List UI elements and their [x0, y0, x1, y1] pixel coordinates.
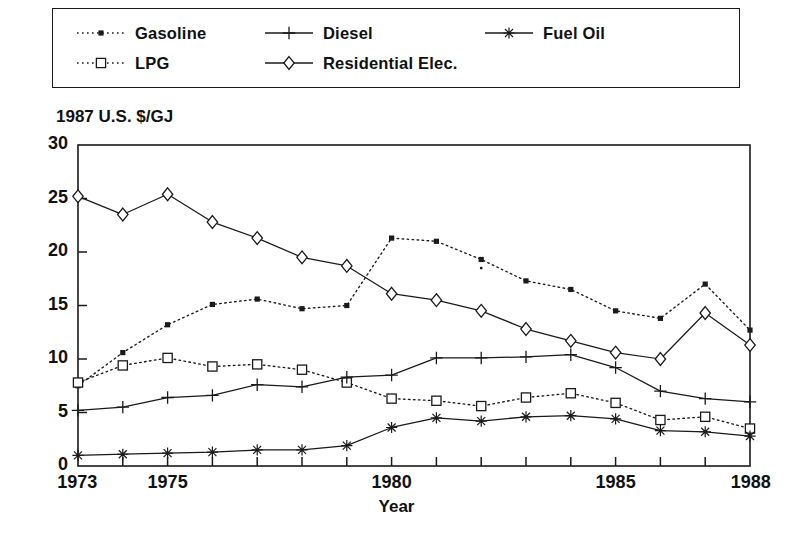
y-tick-label: 30 — [22, 133, 68, 154]
asterisk-icon — [341, 440, 352, 451]
marker-shape — [434, 239, 439, 244]
y-tick-label: 15 — [22, 294, 68, 315]
plus-icon — [296, 381, 308, 393]
data-series-group — [72, 188, 756, 461]
open-square-icon — [521, 393, 530, 402]
open-square-icon — [611, 398, 620, 407]
y-axis-title: 1987 U.S. $/GJ — [56, 107, 173, 127]
plus-icon — [251, 378, 263, 390]
open-square-icon — [163, 353, 172, 362]
plus-icon — [161, 391, 173, 403]
open-square-icon — [297, 365, 306, 374]
marker-shape — [521, 393, 530, 402]
open-diamond-icon — [431, 294, 441, 307]
open-diamond-icon — [476, 304, 486, 317]
plot-frame — [78, 145, 750, 466]
plus-icon — [117, 401, 129, 413]
open-square-icon — [387, 394, 396, 403]
plus-icon — [430, 352, 442, 364]
marker-shape — [208, 362, 217, 371]
marker-shape — [253, 360, 262, 369]
marker-shape — [430, 352, 442, 364]
asterisk-icon — [700, 426, 711, 437]
open-square-icon — [73, 378, 82, 387]
marker-shape — [118, 208, 128, 221]
marker-shape — [520, 351, 532, 363]
marker-shape — [611, 398, 620, 407]
open-square-icon — [432, 396, 441, 405]
marker-shape — [744, 396, 756, 408]
plus-icon — [72, 404, 84, 416]
marker-shape — [432, 396, 441, 405]
marker-shape — [703, 282, 708, 287]
marker-shape — [431, 294, 441, 307]
asterisk-icon — [162, 448, 173, 459]
open-diamond-icon — [521, 323, 531, 336]
marker-shape — [255, 296, 260, 301]
series-residential-elec — [73, 188, 755, 366]
marker-shape — [387, 394, 396, 403]
marker-shape — [385, 369, 397, 381]
open-diamond-icon — [297, 251, 307, 264]
filled-square-icon — [568, 287, 573, 292]
marker-shape — [700, 426, 711, 437]
open-diamond-icon — [162, 188, 172, 201]
open-diamond-icon — [118, 208, 128, 221]
marker-shape — [610, 413, 621, 424]
filled-square-icon — [255, 296, 260, 301]
open-square-icon — [656, 415, 665, 424]
open-square-icon — [208, 362, 217, 371]
y-tick-label: 25 — [22, 187, 68, 208]
open-square-icon — [701, 412, 710, 421]
y-tick-label: 10 — [22, 347, 68, 368]
open-diamond-icon — [566, 334, 576, 347]
filled-square-icon — [523, 278, 528, 283]
plus-icon — [520, 351, 532, 363]
asterisk-icon — [655, 425, 666, 436]
marker-shape — [566, 334, 576, 347]
filled-square-icon — [165, 322, 170, 327]
marker-shape — [566, 389, 575, 398]
marker-shape — [476, 415, 487, 426]
marker-shape — [656, 415, 665, 424]
filled-square-icon — [120, 350, 125, 355]
marker-shape — [297, 365, 306, 374]
marker-shape — [565, 349, 577, 361]
marker-shape — [162, 188, 172, 201]
x-axis-ticks — [123, 457, 705, 466]
plus-icon — [609, 361, 621, 373]
plot-area: 1987 U.S. $/GJ Year 05101520253019731975… — [0, 0, 793, 547]
marker-shape — [207, 216, 217, 229]
filled-square-icon — [210, 302, 215, 307]
open-square-icon — [118, 361, 127, 370]
asterisk-icon — [386, 422, 397, 433]
marker-shape — [299, 306, 304, 311]
marker-shape — [206, 389, 218, 401]
series-line — [78, 358, 750, 429]
x-tick-label: 1988 — [731, 472, 771, 493]
marker-shape — [389, 235, 394, 240]
marker-shape — [344, 303, 349, 308]
asterisk-icon — [207, 446, 218, 457]
filled-square-icon — [479, 257, 484, 262]
asterisk-icon — [476, 415, 487, 426]
marker-shape — [658, 316, 663, 321]
marker-shape — [610, 346, 620, 359]
marker-shape — [568, 287, 573, 292]
asterisk-icon — [296, 444, 307, 455]
marker-shape — [296, 381, 308, 393]
marker-shape — [165, 322, 170, 327]
marker-shape — [386, 422, 397, 433]
marker-shape — [252, 444, 263, 455]
marker-shape — [120, 350, 125, 355]
axis-frame — [78, 145, 750, 466]
series-line — [78, 238, 750, 386]
open-diamond-icon — [207, 216, 217, 229]
marker-shape — [476, 304, 486, 317]
marker-shape — [521, 323, 531, 336]
plus-icon — [565, 349, 577, 361]
plus-icon — [206, 389, 218, 401]
marker-shape — [654, 385, 666, 397]
marker-shape — [118, 361, 127, 370]
open-square-icon — [566, 389, 575, 398]
